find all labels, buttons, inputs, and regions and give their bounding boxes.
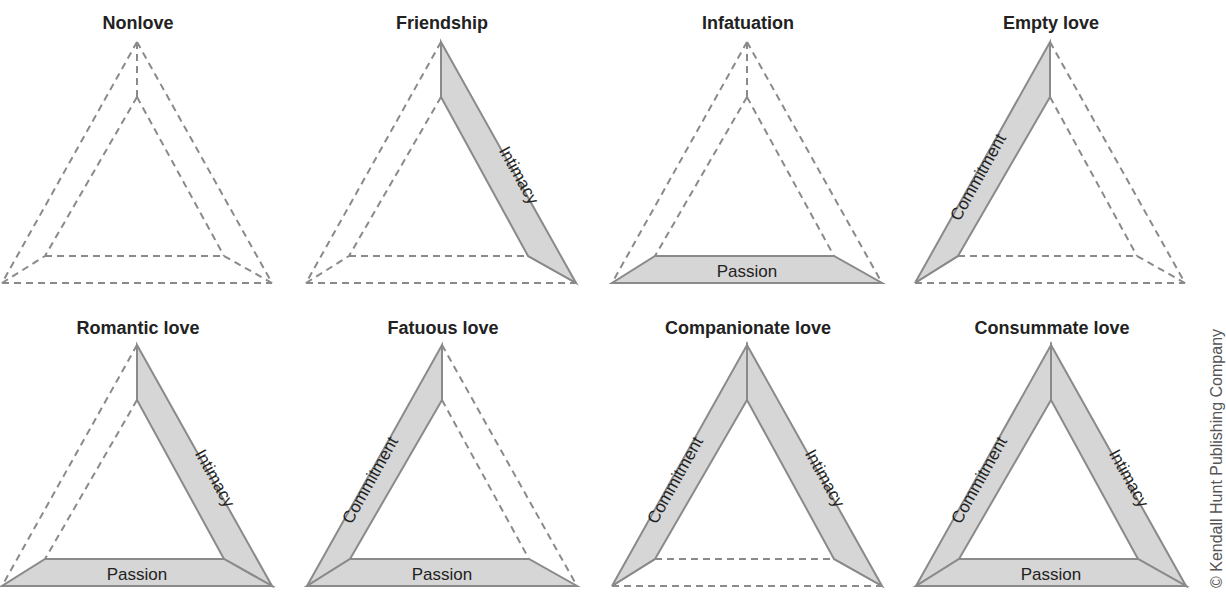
panel-title: Consummate love	[916, 318, 1188, 339]
passion-label: Passion	[107, 565, 167, 584]
panel-title: Empty love	[915, 13, 1187, 34]
copyright-notice: © Kendall Hunt Publishing Company	[1208, 329, 1226, 588]
panel-title: Romantic love	[2, 318, 274, 339]
panel-title: Fatuous love	[307, 318, 579, 339]
panel-title: Companionate love	[612, 318, 884, 339]
panel-title: Nonlove	[2, 13, 274, 34]
passion-label: Passion	[1021, 565, 1081, 584]
love-triangle: PassionIntimacyCommitment	[916, 345, 1188, 590]
love-triangle: Intimacy	[306, 42, 578, 287]
love-triangle	[2, 42, 274, 287]
panel-title: Friendship	[306, 13, 578, 34]
love-triangle: PassionIntimacy	[2, 345, 274, 590]
love-triangle: Passion	[612, 42, 884, 287]
passion-label: Passion	[412, 565, 472, 584]
panel-title: Infatuation	[612, 13, 884, 34]
love-triangle: IntimacyCommitment	[612, 345, 884, 590]
love-triangle: PassionCommitment	[307, 345, 579, 590]
love-triangle: Commitment	[915, 42, 1187, 287]
passion-label: Passion	[717, 262, 777, 281]
